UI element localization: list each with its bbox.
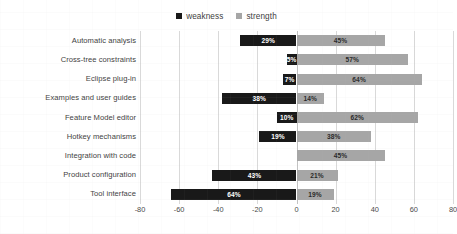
category-label: Automatic analysis bbox=[0, 37, 136, 45]
category-label: Integration with code bbox=[0, 152, 136, 160]
category-label: Cross-tree constraints bbox=[0, 56, 136, 64]
x-tick-label: -80 bbox=[135, 205, 146, 214]
category-label: Eclipse plug-in bbox=[0, 75, 136, 83]
bar-value-label-weakness: 29% bbox=[240, 35, 297, 46]
category-label: Feature Model editor bbox=[0, 114, 136, 122]
bar-value-label-strength: 38% bbox=[297, 131, 371, 142]
bar-row: 38%14% bbox=[140, 93, 453, 104]
bar-value-label-strength: 64% bbox=[297, 74, 422, 85]
bar-row: 29%45% bbox=[140, 35, 453, 46]
x-tick-label: -20 bbox=[252, 205, 263, 214]
x-tick-label: 40 bbox=[371, 205, 379, 214]
bar-value-label-strength: 21% bbox=[297, 170, 338, 181]
x-axis-tick-labels: -80-60-40-20020406080 bbox=[140, 205, 453, 219]
x-tick-label: 80 bbox=[449, 205, 457, 214]
bar-value-label-weakness: 38% bbox=[222, 93, 296, 104]
bar-row: 64%19% bbox=[140, 189, 453, 200]
bar-row: 7%64% bbox=[140, 74, 453, 85]
legend-item-weakness: weakness bbox=[176, 12, 223, 21]
legend-item-strength: strength bbox=[236, 12, 276, 21]
category-label: Tool interface bbox=[0, 190, 136, 198]
plot-area: 29%45%5%57%7%64%38%14%10%62%19%38%45%43%… bbox=[140, 31, 453, 204]
legend-label-strength: strength bbox=[246, 12, 276, 21]
bar-value-label-strength: 45% bbox=[297, 150, 385, 161]
category-label: Examples and user guides bbox=[0, 94, 136, 102]
bar-row: 43%21% bbox=[140, 170, 453, 181]
bar-value-label-weakness: 64% bbox=[171, 189, 296, 200]
chart-legend: weakness strength bbox=[0, 8, 453, 24]
category-axis-labels: Automatic analysisCross-tree constraints… bbox=[0, 31, 136, 204]
category-label: Product configuration bbox=[0, 171, 136, 179]
bar-value-label-strength: 62% bbox=[297, 112, 418, 123]
bar-row: 45% bbox=[140, 150, 453, 161]
x-tick-label: -40 bbox=[213, 205, 224, 214]
category-label: Hotkey mechanisms bbox=[0, 133, 136, 141]
bar-value-label-weakness: 10% bbox=[277, 112, 297, 123]
bar-value-label-strength: 19% bbox=[297, 189, 334, 200]
bar-value-label-strength: 14% bbox=[297, 93, 324, 104]
bar-row: 10%62% bbox=[140, 112, 453, 123]
x-tick-label: 60 bbox=[410, 205, 418, 214]
legend-swatch-strength bbox=[236, 13, 242, 19]
gridline bbox=[453, 31, 454, 204]
bar-row: 5%57% bbox=[140, 54, 453, 65]
bar-value-label-weakness: 43% bbox=[212, 170, 296, 181]
bar-row: 19%38% bbox=[140, 131, 453, 142]
legend-swatch-weakness bbox=[176, 13, 182, 19]
bar-value-label-strength: 45% bbox=[297, 35, 385, 46]
bar-value-label-weakness: 19% bbox=[259, 131, 296, 142]
x-tick-label: -60 bbox=[174, 205, 185, 214]
legend-label-weakness: weakness bbox=[186, 12, 223, 21]
bar-value-label-strength: 57% bbox=[297, 54, 409, 65]
x-tick-label: 0 bbox=[294, 205, 298, 214]
x-tick-label: 20 bbox=[332, 205, 340, 214]
